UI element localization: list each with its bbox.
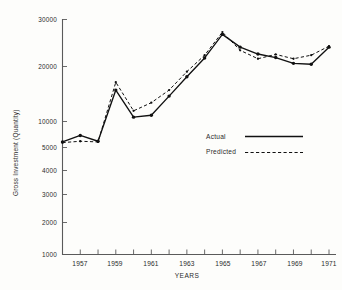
chart-page: Gross Investment (Quantity) 30000 20000 … — [0, 0, 342, 290]
y-tick-2000: 2000 — [42, 219, 67, 226]
y-tick-1000: 1000 — [42, 251, 67, 258]
y-tick-3000: 3000 — [42, 191, 67, 198]
data-point — [185, 75, 188, 78]
y-tick-4000: 4000 — [42, 167, 67, 174]
data-point — [203, 54, 205, 56]
x-tick-label: 1967 — [251, 260, 267, 267]
y-tick-label: 4000 — [42, 167, 57, 174]
data-point — [275, 53, 277, 55]
y-tick-label: 2000 — [42, 219, 57, 226]
series-line-predicted — [63, 32, 330, 143]
data-point — [114, 88, 117, 91]
data-point — [203, 56, 206, 59]
x-tick-label: 1963 — [179, 260, 195, 267]
data-point — [150, 114, 153, 117]
y-tick-label: 30000 — [38, 16, 57, 23]
data-point — [310, 54, 312, 56]
data-point — [239, 49, 241, 51]
data-point — [79, 134, 82, 137]
data-point — [79, 140, 81, 142]
data-point — [292, 58, 294, 60]
legend-label-actual: Actual — [206, 133, 226, 140]
x-axis-ticks — [63, 250, 330, 255]
data-point — [96, 140, 99, 143]
data-point — [168, 89, 170, 91]
x-tick-label: 1957 — [72, 260, 88, 267]
series-markers-actual — [61, 33, 331, 144]
y-axis-title: Gross Investment (Quantity) — [12, 109, 20, 196]
data-point — [132, 110, 134, 112]
y-tick-label: 1000 — [42, 251, 57, 258]
data-point — [115, 81, 117, 83]
x-axis-title: YEARS — [175, 272, 200, 279]
legend-label-predicted: Predicted — [206, 148, 236, 155]
data-point — [310, 63, 313, 66]
data-point — [132, 115, 135, 118]
x-tick-label: 1965 — [215, 260, 231, 267]
investment-line-chart: Gross Investment (Quantity) 30000 20000 … — [0, 0, 342, 290]
data-point — [257, 58, 259, 60]
data-point — [221, 33, 224, 36]
series-markers-predicted — [61, 31, 330, 144]
data-point — [274, 56, 277, 59]
data-point — [61, 140, 64, 143]
data-point — [238, 45, 241, 48]
y-tick-label: 5000 — [42, 144, 57, 151]
data-point — [292, 62, 295, 65]
x-tick-label: 1969 — [287, 260, 303, 267]
y-tick-label: 10000 — [38, 118, 57, 125]
data-point — [167, 94, 170, 97]
y-tick-label: 20000 — [38, 63, 57, 70]
x-tick-label: 1971 — [321, 260, 337, 267]
data-point — [327, 45, 330, 48]
chart-legend: Actual Predicted — [206, 133, 303, 155]
x-tick-label: 1959 — [107, 260, 123, 267]
y-tick-label: 3000 — [42, 191, 57, 198]
data-point — [150, 102, 152, 104]
y-tick-5000: 5000 — [42, 144, 67, 151]
data-point — [186, 71, 188, 73]
data-point — [256, 52, 259, 55]
x-tick-label: 1961 — [143, 260, 159, 267]
x-axis-tick-labels: 1957 1959 1961 1963 1965 1967 1969 1971 — [72, 260, 337, 267]
